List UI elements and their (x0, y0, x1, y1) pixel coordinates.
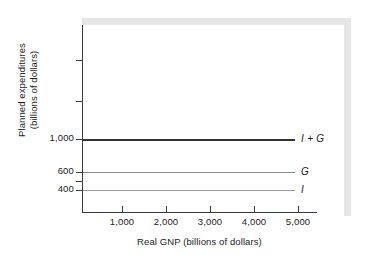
y-axis-line (82, 25, 83, 213)
chart-figure: 1,000 600 400 1,000 2,000 3,000 4,000 5,… (0, 0, 371, 261)
y-tick-label-400: 400 (36, 184, 74, 194)
series-line-i-plus-g (83, 139, 295, 141)
y-tick-500 (76, 181, 83, 182)
series-label-i-plus-g: I + G (301, 133, 324, 144)
x-tick-1000 (122, 206, 123, 213)
x-tick-2000 (166, 206, 167, 213)
x-tick-3000 (210, 206, 211, 213)
y-axis-title-line2: (billions of dollars) (28, 10, 40, 170)
y-tick-1800 (76, 60, 83, 61)
plot-shadow-right (344, 18, 351, 216)
series-line-g (83, 172, 295, 173)
plot-shadow-top (82, 18, 351, 25)
series-label-i: I (301, 184, 304, 195)
x-axis-line (82, 212, 317, 213)
y-axis-title: Planned expenditures (billions of dollar… (16, 10, 40, 170)
plot-area (82, 25, 344, 213)
x-axis-title: Real GNP (billions of dollars) (82, 236, 317, 247)
x-tick-4000 (254, 206, 255, 213)
x-tick-5000 (298, 206, 299, 213)
y-tick-label-1000: 1,000 (36, 133, 74, 143)
x-tick-label-2000: 2,000 (144, 216, 188, 227)
y-tick-label-600: 600 (36, 166, 74, 176)
y-tick-600 (76, 172, 83, 173)
x-tick-label-1000: 1,000 (100, 216, 144, 227)
y-tick-1400 (76, 101, 83, 102)
y-tick-1000 (76, 139, 83, 140)
x-tick-label-5000: 5,000 (276, 216, 320, 227)
series-label-g: G (301, 166, 309, 177)
y-tick-400 (76, 190, 83, 191)
x-tick-label-4000: 4,000 (232, 216, 276, 227)
y-axis-title-line1: Planned expenditures (16, 10, 28, 170)
x-tick-label-3000: 3,000 (188, 216, 232, 227)
series-line-i (83, 190, 295, 191)
